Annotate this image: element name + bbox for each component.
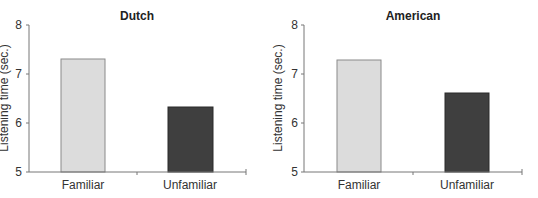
- chart-american: American Listening time (sec.) 8 7 6 5 F…: [268, 0, 538, 198]
- y-tick-label: 8: [15, 18, 22, 32]
- x-tick-label: Familiar: [62, 178, 105, 192]
- bar-unfamiliar: [445, 93, 489, 172]
- x-tick-label: Familiar: [338, 178, 381, 192]
- chart-title: Dutch: [120, 9, 154, 23]
- y-tick-label: 6: [291, 116, 298, 130]
- bar-familiar: [61, 59, 105, 172]
- chart-title: American: [386, 9, 441, 23]
- y-tick-label: 7: [15, 67, 22, 81]
- y-axis-label: Listening time (sec.): [0, 44, 11, 151]
- y-tick-label: 5: [291, 165, 298, 179]
- bar-unfamiliar: [168, 107, 213, 172]
- y-tick-label: 7: [291, 67, 298, 81]
- chart-dutch: Dutch Listening time (sec.) 8 7 6 5 Fami…: [0, 0, 268, 198]
- bar-familiar: [337, 60, 381, 172]
- y-tick-label: 5: [15, 165, 22, 179]
- x-tick-label: Unfamiliar: [440, 178, 494, 192]
- y-axis-label: Listening time (sec.): [271, 44, 285, 151]
- y-tick-label: 6: [15, 116, 22, 130]
- chart-american-svg: American Listening time (sec.) 8 7 6 5 F…: [268, 0, 538, 198]
- chart-dutch-svg: Dutch Listening time (sec.) 8 7 6 5 Fami…: [0, 0, 268, 198]
- x-tick-label: Unfamiliar: [163, 178, 217, 192]
- y-tick-label: 8: [291, 18, 298, 32]
